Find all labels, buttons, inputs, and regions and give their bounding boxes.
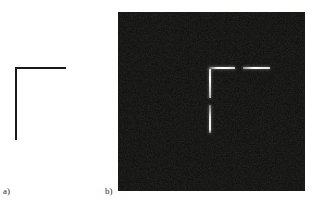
- panel-a-caption: a): [3, 186, 10, 197]
- panel-a-horizontal-arm: [15, 67, 66, 69]
- panel-a-line-drawing: [0, 0, 100, 209]
- panel-b-horizontal-arm-right: [243, 67, 270, 69]
- figure-root: a) b): [0, 0, 313, 209]
- panel-b-vertical-arm-upper: [209, 69, 211, 98]
- panel-a-vertical-arm: [15, 67, 17, 140]
- noise-texture: [118, 12, 305, 191]
- panel-b-noisy-image: [118, 12, 305, 191]
- panel-b-caption: b): [105, 186, 113, 197]
- panel-b-vertical-arm-lower: [209, 105, 211, 133]
- panel-b-horizontal-arm-left: [209, 67, 235, 69]
